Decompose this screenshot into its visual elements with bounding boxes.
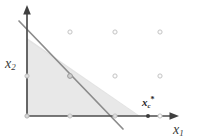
lattice-point [113,30,117,34]
x-axis-label-subscript: 1 [179,128,184,138]
y-axis-arrow-icon [23,5,31,15]
lattice-point [25,74,29,78]
optimum-label-superscript: * [151,95,155,104]
integer-program-feasible-region-figure: x2 x1 xc* [0,0,197,140]
lattice-point-on-line [68,74,73,79]
lattice-point [68,114,72,118]
y-axis-label-subscript: 2 [11,62,16,72]
lattice-point [68,30,72,34]
x-axis-label: x1 [173,123,184,138]
lattice-point [113,114,117,118]
optimum-point-marker [146,114,150,118]
lattice-point [113,74,117,78]
optimum-point-label: xc* [142,96,155,110]
plot-canvas [0,0,197,140]
lattice-point [158,74,162,78]
y-axis-label: x2 [5,57,16,72]
lattice-point [158,114,162,118]
lattice-point [25,114,29,118]
feasible-region-fringe [27,40,139,116]
x-axis-arrow-icon [170,112,180,120]
lattice-point [158,30,162,34]
